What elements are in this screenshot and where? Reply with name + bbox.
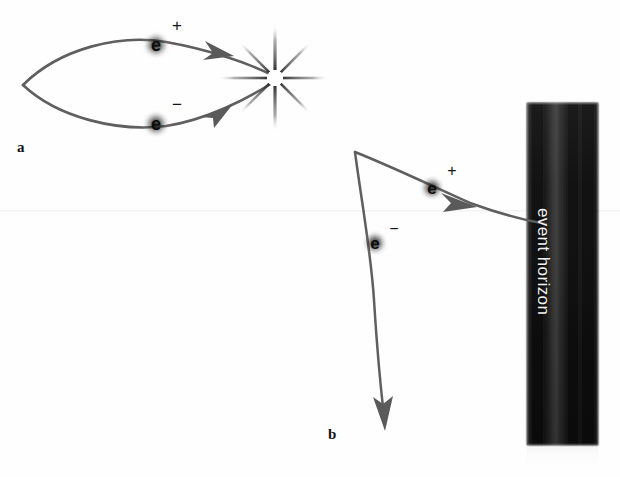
horizon-band-ghost: [527, 445, 598, 471]
positron-charge-b: +: [447, 162, 456, 179]
arrowhead-electron-a: [201, 104, 233, 128]
event-horizon-label: event horizon: [533, 208, 553, 315]
panel-label-a: a: [17, 139, 25, 156]
electron-symbol-b: e: [370, 234, 379, 253]
electron-symbol-a: e: [151, 114, 161, 134]
panel-label-b: b: [328, 426, 336, 443]
electron-marker-b: e −: [362, 220, 399, 256]
panel-b-group: [355, 152, 546, 431]
positron-symbol-a: e: [151, 35, 161, 55]
figure-canvas: e + e − e +: [0, 0, 620, 477]
annihilation-flash-icon: [217, 24, 329, 132]
diagram-vector-layer: e + e − e +: [0, 0, 620, 477]
positron-marker-a: e +: [142, 16, 182, 59]
electron-charge-a: −: [172, 95, 182, 114]
electron-marker-a: e −: [142, 95, 182, 138]
electron-track-b: [355, 152, 385, 424]
positron-charge-a: +: [172, 16, 182, 35]
positron-symbol-b: e: [427, 179, 436, 198]
electron-charge-b: −: [389, 220, 398, 237]
